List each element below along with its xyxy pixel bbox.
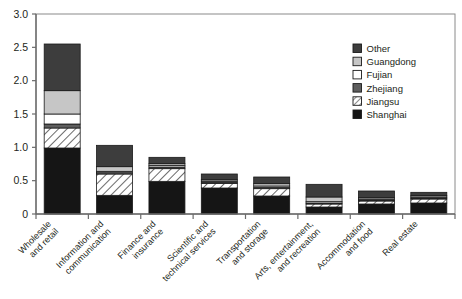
x-tick-label: Scientific andtechnical services: [153, 218, 218, 283]
bar-segment: [411, 199, 447, 203]
legend-item: Other: [353, 43, 390, 54]
bar-group: [306, 184, 342, 214]
legend-item: Jiangsu: [353, 96, 399, 107]
bar-segment: [97, 167, 133, 172]
bar-segment: [306, 204, 342, 207]
bar-group: [97, 145, 133, 214]
bar-segment: [411, 192, 447, 195]
bar-segment: [358, 204, 394, 214]
bar-segment: [254, 177, 290, 184]
bar-segment: [306, 197, 342, 202]
legend-swatch: [353, 84, 362, 93]
bar-segment: [306, 184, 342, 197]
x-tick-label: Wholesaleand retail: [16, 219, 60, 263]
bar-segment: [201, 183, 237, 188]
legend-swatch: [353, 110, 362, 119]
y-tick-label: 0.5: [13, 174, 28, 186]
y-tick-label: 1.0: [13, 141, 28, 153]
legend-swatch: [353, 97, 362, 106]
legend-swatch: [353, 70, 362, 79]
y-tick-label: 1.5: [13, 108, 28, 120]
x-axis: Wholesaleand retailInformation andcommun…: [16, 214, 455, 289]
legend-label: Other: [367, 43, 391, 54]
stacked-bar-chart: 00.51.01.52.02.53.0 Wholesaleand retailI…: [0, 0, 462, 299]
legend-label: Fujian: [367, 69, 393, 80]
bar-segment: [254, 196, 290, 214]
legend-label: Jiangsu: [367, 96, 400, 107]
y-tick-label: 2.5: [13, 41, 28, 53]
x-tick-label: Accommodationand food: [315, 219, 375, 279]
bar-segment: [306, 207, 342, 214]
bar-segment: [97, 145, 133, 166]
bar-segment: [254, 189, 290, 196]
legend-label: Shanghai: [367, 109, 407, 120]
bar-segment: [44, 91, 80, 114]
legend-item: Shanghai: [353, 109, 407, 120]
legend-swatch: [353, 44, 362, 53]
y-tick-label: 0: [22, 208, 28, 220]
bar-group: [149, 157, 185, 214]
bar-segment: [44, 44, 80, 91]
chart-canvas: 00.51.01.52.02.53.0 Wholesaleand retailI…: [0, 0, 462, 299]
legend-label: Guangdong: [367, 56, 417, 67]
x-tick-label: Information andcommunication: [54, 219, 113, 278]
legend-swatch: [353, 57, 362, 65]
bar-segment: [44, 114, 80, 124]
bar-segment: [149, 169, 185, 182]
bar-group: [411, 192, 447, 214]
legend-item: Fujian: [353, 69, 392, 80]
y-axis: 00.51.01.52.02.53.0: [13, 8, 36, 220]
bar-group: [254, 177, 290, 214]
bar-group: [44, 44, 80, 214]
bar-group: [201, 174, 237, 214]
bar-segment: [149, 181, 185, 214]
bar-segment: [358, 191, 394, 198]
bar-segment: [149, 157, 185, 163]
bar-segment: [201, 188, 237, 214]
bar-segment: [358, 201, 394, 204]
bar-segment: [44, 124, 80, 128]
legend-label: Zhejiang: [367, 83, 403, 94]
bar-group: [358, 191, 394, 214]
bar-segment: [97, 195, 133, 214]
y-tick-label: 2.0: [13, 74, 28, 86]
legend-item: Zhejiang: [353, 83, 403, 94]
x-tick-label: Real estate: [380, 219, 419, 258]
y-tick-label: 3.0: [13, 8, 28, 20]
bar-segment: [97, 174, 133, 195]
x-tick-label-line: Real estate: [380, 219, 419, 258]
x-tick-label: Finance andinsurance: [116, 219, 166, 269]
bar-segment: [411, 203, 447, 214]
bar-segment: [44, 148, 80, 214]
bar-segment: [201, 174, 237, 180]
bar-segment: [44, 128, 80, 148]
